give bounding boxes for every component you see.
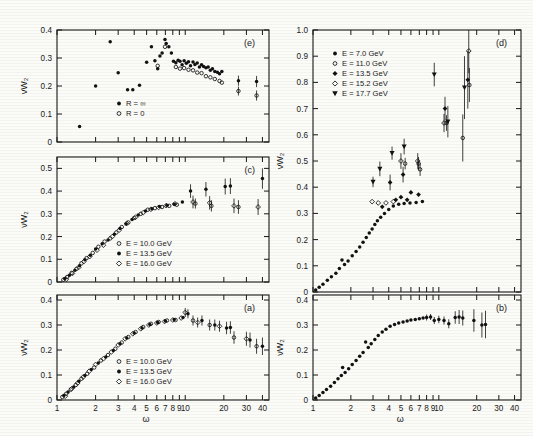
y-tick-label: 0.4 — [41, 296, 53, 305]
x-tick-label: 2 — [93, 404, 98, 413]
data-point — [379, 216, 383, 220]
data-point — [181, 200, 185, 204]
legend-marker — [116, 261, 121, 266]
plot-frame-b — [313, 295, 521, 400]
x-tick-label: 6 — [409, 404, 414, 413]
data-point — [346, 259, 350, 263]
data-point — [213, 77, 217, 81]
data-point — [480, 323, 484, 327]
y-tick-label: 0.3 — [41, 54, 53, 63]
data-point — [380, 204, 385, 209]
data-point — [373, 338, 377, 342]
legend-label: E = 16.0 GeV — [126, 259, 173, 268]
y-tick-label: 0.4 — [41, 26, 53, 35]
data-point — [377, 167, 382, 172]
x-axis-label: ω — [143, 414, 150, 424]
panel-label: (a) — [244, 303, 255, 313]
data-point — [373, 223, 377, 227]
panel-b: 00.10.20.30.423456789102030401ωνW₂(b) — [275, 295, 521, 424]
data-point — [399, 195, 404, 200]
data-point — [472, 319, 476, 323]
x-tick-label: 5 — [144, 404, 149, 413]
data-point — [106, 238, 110, 242]
data-point — [187, 68, 191, 72]
legend-label: E = 11.0 GeV — [342, 59, 388, 68]
data-point — [409, 318, 413, 322]
data-point — [237, 79, 241, 83]
data-point — [108, 40, 112, 44]
data-point — [180, 63, 184, 67]
data-point — [457, 315, 461, 319]
data-point — [408, 201, 412, 205]
data-point — [401, 172, 406, 177]
data-point — [145, 60, 149, 64]
x-tick-label: 2 — [349, 404, 354, 413]
legend-marker — [117, 370, 121, 374]
data-point — [340, 374, 344, 378]
data-point — [388, 325, 392, 329]
data-point — [204, 188, 208, 192]
panel-label: (b) — [496, 303, 507, 313]
y-tick-label: 0.2 — [41, 233, 53, 242]
x-tick-label: 40 — [510, 404, 520, 413]
y-axis-label: νW₂ — [19, 77, 29, 94]
legend-marker — [333, 52, 337, 56]
data-point — [314, 288, 318, 292]
data-point — [432, 72, 437, 77]
data-point — [330, 275, 334, 279]
data-point — [213, 323, 217, 327]
panel-a: 00.10.20.30.423456789102030401ωνW₂(a)E =… — [19, 295, 269, 424]
data-point — [178, 67, 182, 71]
x-tick-label: 10 — [181, 404, 191, 413]
legend-marker — [332, 91, 338, 96]
data-point — [402, 202, 406, 206]
data-point — [94, 84, 98, 88]
panel-label: (e) — [244, 38, 255, 48]
data-point — [187, 60, 191, 64]
data-point — [126, 88, 129, 92]
panel-label: (c) — [245, 165, 256, 175]
data-point — [138, 83, 142, 87]
data-point — [443, 106, 448, 111]
y-tick-label: 0.2 — [297, 346, 309, 355]
panel-label: (d) — [496, 38, 507, 48]
data-point — [189, 189, 193, 193]
x-tick-label: 7 — [417, 404, 422, 413]
y-tick-label: 1.0 — [297, 26, 309, 35]
x-tick-label: 20 — [219, 404, 229, 413]
x-tick-label: 8 — [171, 404, 176, 413]
x-axis-label: ω — [397, 414, 404, 424]
y-tick-label: 0.5 — [41, 164, 53, 173]
data-point — [354, 359, 358, 363]
data-point — [167, 45, 171, 49]
data-point — [347, 367, 351, 371]
legend-label: E = 13.5 GeV — [126, 249, 173, 258]
data-point — [326, 278, 330, 282]
x-tick-label: 6 — [155, 404, 160, 413]
data-point — [170, 51, 174, 55]
data-point — [361, 351, 365, 355]
y-tick-label: 0.6 — [297, 131, 309, 140]
y-tick-label: 0 — [47, 138, 52, 147]
data-point — [182, 66, 186, 70]
data-point — [211, 67, 215, 71]
legend-marker — [117, 360, 121, 364]
data-point — [462, 85, 467, 90]
data-point — [402, 144, 407, 149]
panel-d: 00.10.20.30.40.50.60.70.80.91.0νW₂(d)E =… — [275, 26, 521, 297]
data-point — [376, 201, 381, 206]
data-point — [195, 71, 199, 75]
y-tick-label: 0 — [303, 396, 308, 405]
data-point — [336, 377, 340, 381]
x-tick-label: 1 — [311, 404, 316, 413]
panel-e: 00.10.20.30.4νW₂(e)R = ∞R = 0 — [19, 26, 269, 147]
data-point — [421, 316, 425, 320]
data-point — [66, 390, 70, 394]
data-point — [150, 45, 154, 49]
data-point — [225, 326, 229, 330]
legend-marker — [117, 252, 121, 256]
legend-label: R = 0 — [126, 109, 144, 118]
legend-marker — [117, 242, 121, 246]
data-point — [338, 267, 342, 271]
x-tick-label: 30 — [494, 404, 504, 413]
